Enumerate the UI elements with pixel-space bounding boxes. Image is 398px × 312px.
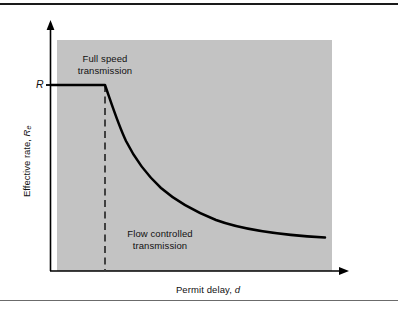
- annotation-full-speed-line2: transmission: [78, 65, 133, 76]
- figure-container: Full speed transmission Flow controlled …: [0, 0, 398, 312]
- x-axis-arrowhead: [339, 267, 349, 275]
- annotation-full-speed-transmission: Full speed transmission: [62, 53, 148, 76]
- annotation-flow-controlled-line2: transmission: [133, 240, 188, 251]
- y-axis-label: Effective rate, Re: [21, 101, 34, 221]
- y-axis-label-text: Effective rate,: [21, 139, 32, 197]
- annotation-flow-controlled-transmission: Flow controlled transmission: [110, 228, 210, 251]
- annotation-flow-controlled-line1: Flow controlled: [127, 228, 192, 239]
- x-axis-label: Permit delay, d: [148, 284, 268, 296]
- plot-area: [0, 0, 398, 312]
- x-axis-label-text: Permit delay,: [176, 284, 232, 295]
- y-axis-label-subscript: e: [24, 126, 33, 130]
- y-axis-arrowhead: [47, 20, 55, 30]
- y-axis-label-symbol: R: [21, 130, 32, 137]
- x-axis-label-symbol: d: [235, 284, 240, 295]
- y-axis-tick-label-R: R: [36, 79, 44, 91]
- annotation-full-speed-line1: Full speed: [83, 53, 128, 64]
